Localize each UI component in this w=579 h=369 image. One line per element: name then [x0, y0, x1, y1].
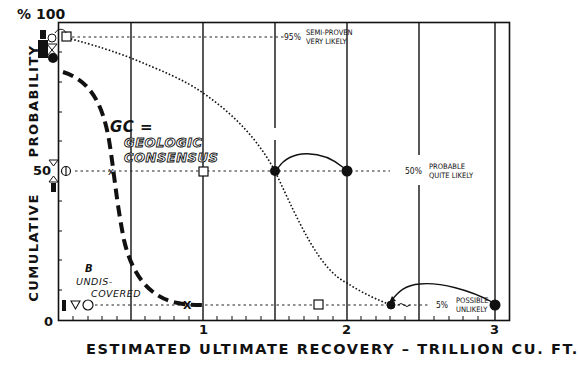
b-label-2: UNDIS-: [76, 276, 113, 287]
open-circle-marker: [83, 300, 93, 310]
filled-bar-marker: [62, 300, 66, 311]
open-square-marker: [62, 32, 71, 41]
filled-circle-marker: [490, 300, 501, 311]
x-marker: x: [108, 166, 114, 177]
y-axis-title-bottom: CUMULATIVE: [26, 193, 41, 303]
b-label-3: COVERED: [91, 288, 141, 299]
y-axis-title-top: PROBABILITY: [26, 48, 41, 158]
gc-label-3: CONSENSUS: [124, 150, 218, 165]
arc-1-5-to-2: [278, 154, 344, 168]
x-axis-title: ESTIMATED ULTIMATE RECOVERY – TRILLION C…: [86, 341, 579, 357]
open-square-marker: [199, 167, 208, 176]
open-square-marker: [314, 300, 323, 309]
gc-label-2: GEOLOGIC: [124, 135, 203, 150]
ref50-pct: 50%: [405, 167, 422, 176]
reference-lines: [72, 37, 430, 305]
y-tick-100: % 100: [17, 6, 65, 22]
x-tick-3: 3: [490, 322, 499, 337]
filled-circle-marker: [342, 166, 353, 177]
x-marker: X: [183, 299, 192, 312]
x-tick-2: 2: [342, 322, 351, 337]
filled-circle-marker: [387, 301, 395, 309]
ref50-text-2: QUITE LIKELY: [429, 172, 473, 181]
y-tick-0: 0: [44, 314, 53, 329]
x-tick-1: 1: [199, 322, 208, 337]
open-triangle-marker: [71, 301, 80, 309]
ref95-pct: 95%: [284, 33, 301, 42]
ref5-text-2: UNLIKELY: [456, 306, 487, 315]
b-label-1: B: [85, 263, 93, 274]
gc-label-1: GC =: [110, 118, 153, 136]
filled-circle-marker: [270, 166, 280, 176]
ref95-text-2: VERY LIKELY: [306, 38, 347, 47]
gc-curve: [63, 72, 203, 305]
y-tick-50: 50: [33, 163, 51, 178]
ref5-pct: 5%: [436, 301, 448, 310]
